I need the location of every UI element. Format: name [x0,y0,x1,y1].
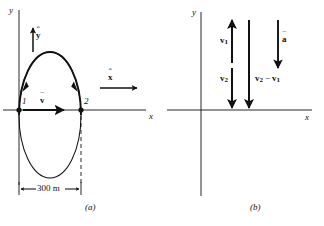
panel-b-axes [167,12,312,196]
panel-a-orbit-upper [19,52,81,115]
panel-a-x-axis-label: x [149,112,153,121]
physics-figure: y x ˆ y ˆ x ‾ v 1 2 300 m (a) y x v1 v2 … [0,0,324,226]
panel-a-dimension-label: 300 m [37,184,60,193]
v1-label: v1 [220,36,228,46]
y-hat-mark: ˆ [37,26,40,35]
panel-b-y-axis-label: y [192,8,196,17]
v1-subscript: 1 [225,38,229,46]
panel-a-caption: (a) [85,203,96,212]
panel-a-orbit-path [19,52,81,178]
panel-a-point-1-label: 1 [22,97,27,106]
v-bar-mark: ‾ [41,92,44,101]
panel-a-point-1-dot [16,107,21,112]
panel-a-y-axis-label: y [9,6,13,15]
panel-b-x-axis-label: x [305,113,309,122]
acceleration-label: ‾ a [282,35,287,44]
diff-minus-sign: − [263,73,272,83]
v2-minus-v1-label: v2−v1 [255,74,280,84]
velocity-vector-label: ‾ v [40,96,45,105]
panel-a-point-2-dot [78,107,83,112]
unit-vector-y-label: ˆ y [36,31,41,40]
x-hat-mark: ˆ [109,68,112,77]
diff-v1-subscript: 1 [277,76,281,84]
panel-b-caption: (b) [250,203,261,212]
v2-subscript: 2 [225,76,229,84]
a-bar-mark: ‾ [283,31,286,40]
v2-label: v2 [220,74,228,84]
panel-a-point-2-label: 2 [84,97,89,106]
unit-vector-x-label: ˆ x [108,73,113,82]
